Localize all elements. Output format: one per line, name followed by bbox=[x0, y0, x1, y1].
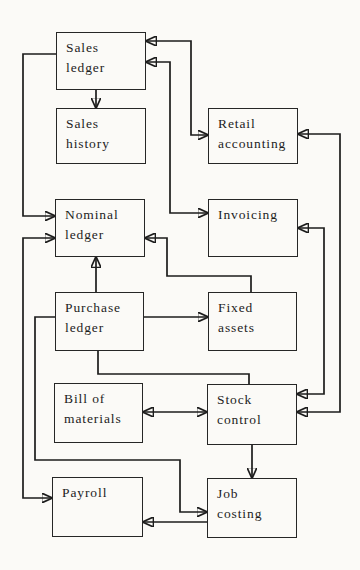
node-nominal-ledger-label: Nominal ledger bbox=[65, 205, 138, 245]
arrow-sales-ledger-nominal-ledger bbox=[23, 54, 56, 216]
node-retail-accounting: Retail accounting bbox=[208, 108, 298, 164]
arrow-invoicing-stock-control bbox=[297, 228, 324, 394]
node-sales-ledger: Sales ledger bbox=[56, 32, 146, 90]
node-sales-history-label: Sales history bbox=[66, 114, 139, 154]
arrow-sales-ledger-invoicing bbox=[146, 62, 208, 213]
accounting-modules-diagram: Sales ledger Sales history Retail accoun… bbox=[0, 0, 360, 570]
node-nominal-ledger: Nominal ledger bbox=[55, 199, 145, 257]
node-job-costing: Job costing bbox=[207, 478, 297, 538]
node-stock-control-label: Stock control bbox=[217, 390, 290, 430]
node-payroll-label: Payroll bbox=[62, 483, 136, 503]
node-stock-control: Stock control bbox=[207, 384, 297, 445]
arrow-nominal-ledger-payroll bbox=[23, 238, 55, 498]
node-invoicing-label: Invoicing bbox=[218, 205, 291, 225]
line-purchase-ledger-stock-control bbox=[98, 351, 249, 384]
node-job-costing-label: Job costing bbox=[217, 484, 290, 524]
node-retail-accounting-label: Retail accounting bbox=[218, 114, 291, 154]
node-bill-of-materials: Bill of materials bbox=[54, 383, 143, 443]
node-sales-history: Sales history bbox=[56, 108, 146, 164]
node-bill-of-materials-label: Bill of materials bbox=[64, 389, 136, 429]
node-fixed-assets-label: Fixed assets bbox=[218, 298, 290, 338]
node-purchase-ledger: Purchase ledger bbox=[55, 292, 144, 351]
node-payroll: Payroll bbox=[52, 477, 143, 537]
arrow-sales-ledger-retail-accounting bbox=[146, 41, 208, 135]
arrow-retail-accounting-stock-control bbox=[297, 134, 340, 412]
node-invoicing: Invoicing bbox=[208, 199, 298, 257]
node-purchase-ledger-label: Purchase ledger bbox=[65, 298, 137, 338]
node-fixed-assets: Fixed assets bbox=[208, 292, 297, 351]
node-sales-ledger-label: Sales ledger bbox=[66, 38, 139, 78]
